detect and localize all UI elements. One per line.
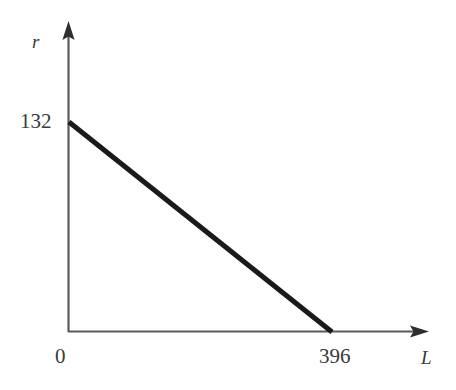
y-axis-title: r xyxy=(32,32,39,51)
x-tick-label-396: 396 xyxy=(319,346,351,367)
plot-canvas xyxy=(0,0,456,390)
x-axis-title: L xyxy=(421,348,432,367)
chart-figure: r L 132 0 396 xyxy=(0,0,456,390)
data-line-budget xyxy=(69,122,332,332)
x-tick-label-origin: 0 xyxy=(55,346,66,367)
y-tick-label-132: 132 xyxy=(20,111,52,132)
